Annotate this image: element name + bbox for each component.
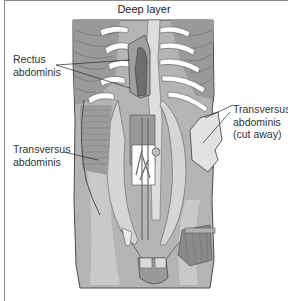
label-rectus-line2: abdominis [13, 66, 61, 78]
label-transversus-line2: abdominis [13, 156, 61, 168]
label-transversus-abdominis: Transversusabdominis [13, 143, 70, 168]
label-cut-line2: abdominis [233, 116, 281, 128]
label-cut-line3: (cut away) [233, 128, 281, 140]
label-transversus-line1: Transversus [13, 143, 70, 155]
label-rectus-abdominis: Rectusabdominis [13, 53, 61, 78]
label-cut-line1: Transversus [233, 103, 288, 115]
label-rectus-line1: Rectus [13, 53, 46, 65]
label-transversus-cut-away: Transversusabdominis(cut away) [233, 103, 288, 141]
